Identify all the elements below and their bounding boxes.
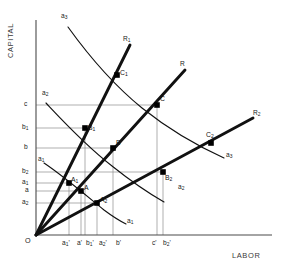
- marker-B1: [82, 125, 88, 131]
- guide-lines-vertical: [69, 105, 163, 235]
- marker-C1: [114, 72, 120, 78]
- curve-label-R-text: R: [180, 60, 185, 67]
- x-tick-a1-prime-mark: ': [68, 239, 69, 246]
- y-tick-b1-sub: 1: [26, 126, 29, 131]
- curve-label-R2-sub: 2: [258, 112, 261, 117]
- curve-label-a3-right-sub: 3: [230, 154, 233, 159]
- x-tick-c-prime-mark: ': [155, 239, 156, 246]
- marker-A: [78, 188, 84, 194]
- point-label-B1: B1: [88, 124, 95, 132]
- figure-canvas: CAPITAL LABOR O c b1 b b2 a1 a a2 a1' a'…: [0, 0, 285, 271]
- point-label-B-text: B: [116, 139, 121, 146]
- x-tick-b2-prime: b2': [163, 239, 171, 247]
- origin-label: O: [25, 236, 31, 245]
- x-tick-b-prime-mark: ': [120, 239, 121, 246]
- guide-lines-horizontal: [36, 105, 163, 203]
- curve-label-a1-right-sub: 1: [131, 220, 134, 225]
- point-label-B2-sub: 2: [170, 176, 173, 182]
- y-tick-c-text: c: [24, 100, 27, 107]
- marker-C2: [208, 140, 214, 146]
- expansion-rays: [36, 45, 253, 235]
- x-tick-b1-prime: b1': [86, 239, 94, 247]
- x-tick-b1-prime-mark: ': [92, 239, 93, 246]
- x-tick-b-prime: b': [116, 239, 121, 247]
- isoquant-curve-a3: [68, 27, 224, 158]
- ray-R2: [36, 118, 253, 235]
- y-tick-a: a: [25, 186, 29, 194]
- x-axis-title: LABOR: [232, 251, 260, 260]
- point-label-C1: C1: [120, 69, 128, 77]
- curve-label-a1-top-sub: 1: [42, 158, 45, 163]
- point-label-B2: B2: [165, 174, 172, 182]
- curve-label-a2-top-sub: 2: [46, 92, 49, 97]
- x-tick-a2-prime: a2': [99, 239, 107, 247]
- marker-B: [110, 145, 116, 151]
- curve-label-a3-top: a3: [61, 12, 67, 20]
- x-tick-a2-prime-mark: ': [105, 239, 106, 246]
- y-tick-b2-sub: 2: [26, 170, 29, 175]
- y-tick-b1: b1: [22, 123, 28, 131]
- curve-label-a2-right: a2: [178, 183, 184, 191]
- curve-label-R2: R2: [253, 109, 261, 117]
- x-tick-a-prime: a': [77, 239, 82, 247]
- x-tick-b2-prime-mark: ': [169, 239, 170, 246]
- point-label-A-text: A: [84, 184, 89, 191]
- curve-label-a2-right-sub: 2: [182, 186, 185, 191]
- curve-label-a3-top-sub: 3: [65, 15, 68, 20]
- point-label-A2-sub: 2: [105, 198, 108, 204]
- y-tick-a2: a2: [22, 198, 28, 206]
- marker-A2: [94, 200, 100, 206]
- y-tick-c: c: [24, 100, 27, 108]
- point-label-C2-sub: 2: [211, 133, 214, 139]
- curve-label-R1: R1: [123, 35, 131, 43]
- y-axis-title: CAPITAL: [6, 16, 15, 66]
- x-tick-a1-prime: a1': [62, 239, 70, 247]
- isoquant-diagram: [0, 0, 285, 271]
- y-tick-b2: b2: [22, 167, 28, 175]
- curve-label-R1-sub: 1: [128, 38, 131, 43]
- y-tick-a1: a1: [22, 178, 28, 186]
- curve-label-R: R: [180, 60, 185, 68]
- y-tick-b: b: [24, 143, 28, 151]
- curve-label-a3-right: a3: [226, 151, 232, 159]
- point-label-B: B: [116, 139, 121, 147]
- point-label-C-text: C: [160, 95, 165, 102]
- point-label-B1-sub: 1: [93, 126, 96, 132]
- point-label-A1: A1: [71, 176, 78, 184]
- point-label-A2: A2: [100, 196, 107, 204]
- marker-C: [154, 102, 160, 108]
- x-tick-a-prime-mark: ': [81, 239, 82, 246]
- y-tick-b-text: b: [24, 143, 28, 150]
- isoquant-curve-a2: [46, 103, 164, 202]
- point-label-C2: C2: [206, 131, 214, 139]
- curve-label-a1-top: a1: [38, 155, 44, 163]
- point-label-A: A: [84, 184, 89, 192]
- y-tick-a-text: a: [25, 186, 29, 193]
- curve-label-a1-right: a1: [127, 217, 133, 225]
- point-label-C: C: [160, 95, 165, 103]
- x-tick-c-prime: c': [152, 239, 157, 247]
- point-label-A1-sub: 1: [76, 178, 79, 184]
- y-tick-a2-sub: 2: [26, 201, 29, 206]
- point-label-C1-sub: 1: [125, 71, 128, 77]
- curve-label-a2-top: a2: [42, 89, 48, 97]
